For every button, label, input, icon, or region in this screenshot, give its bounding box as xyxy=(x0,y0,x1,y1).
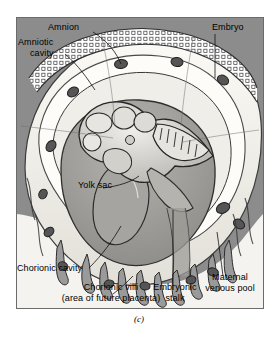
figure-caption: (c) xyxy=(0,314,278,324)
label-embryo: Embryo xyxy=(212,22,244,32)
label-maternal-venous-pool-line2: venous pool xyxy=(196,283,264,293)
otic-vesicle xyxy=(126,136,135,145)
label-amnion: Amnion xyxy=(48,22,79,32)
label-embryonic-stalk-line2: stalk xyxy=(146,293,204,303)
forebrain-vesicle xyxy=(86,113,112,133)
label-amniotic-cavity-line2: cavity xyxy=(30,48,54,58)
label-chorionic-cavity: Chorionic cavity xyxy=(17,263,82,273)
label-maternal-venous-pool-line1: Maternal xyxy=(200,272,260,282)
label-yolk-sac: Yolk sac xyxy=(78,180,112,190)
hindbrain-vesicle xyxy=(134,112,156,132)
midbrain-vesicle xyxy=(112,107,136,129)
label-amniotic-cavity-line1: Amniotic xyxy=(18,37,53,47)
